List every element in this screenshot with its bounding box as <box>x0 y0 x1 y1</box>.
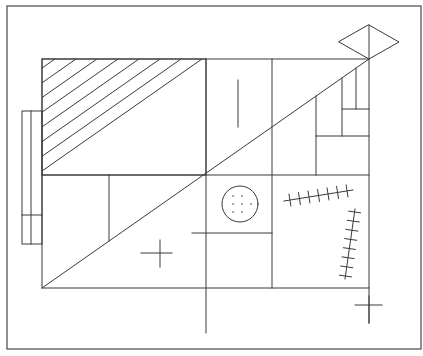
hatch-line <box>0 59 139 175</box>
circle-dot <box>241 203 243 205</box>
hatch-line <box>0 59 160 175</box>
outer-frame <box>7 6 421 349</box>
circle-dot <box>241 195 243 197</box>
cross-bottom-right <box>355 296 382 323</box>
circle-dot <box>232 211 234 213</box>
hatch-line <box>15 59 181 175</box>
hatched-panel <box>0 59 202 175</box>
stitch-spine <box>345 209 355 279</box>
hatch-line <box>0 59 118 175</box>
stitched-line-vertical <box>339 209 360 279</box>
circle-dot <box>232 195 234 197</box>
diagram-canvas <box>0 0 423 356</box>
circle-dot <box>250 203 252 205</box>
stitched-line-horizontal <box>284 185 353 206</box>
dotted-circle <box>222 186 258 222</box>
circle-dot <box>232 203 234 205</box>
hatch-line <box>0 59 34 175</box>
hatch-line <box>0 59 76 175</box>
cross-left <box>141 240 172 267</box>
circle-dot <box>241 211 243 213</box>
grid-lines <box>42 59 369 333</box>
hatch-line <box>0 59 97 175</box>
hatch-line <box>36 59 202 175</box>
side-box <box>22 111 42 244</box>
circle-outline <box>222 186 258 222</box>
side-box-outline <box>22 111 42 244</box>
hatch-line <box>0 59 55 175</box>
hatched-panel-border <box>42 59 206 175</box>
